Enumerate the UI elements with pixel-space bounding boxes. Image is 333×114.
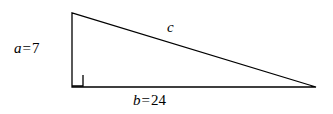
label-hypotenuse-c-variable: c bbox=[167, 19, 174, 35]
label-leg-b-equals: = bbox=[141, 92, 151, 108]
label-leg-a: a=7 bbox=[14, 41, 39, 56]
triangle-outline bbox=[72, 13, 316, 87]
label-leg-a-variable: a bbox=[14, 40, 22, 56]
label-leg-a-value: 7 bbox=[32, 40, 40, 56]
right-triangle-figure: a=7 b=24 c bbox=[0, 0, 333, 114]
label-leg-b: b=24 bbox=[133, 93, 166, 108]
triangle-svg bbox=[0, 0, 333, 114]
label-leg-a-equals: = bbox=[22, 40, 32, 56]
label-leg-b-value: 24 bbox=[151, 92, 166, 108]
right-angle-marker-icon bbox=[72, 75, 83, 86]
label-hypotenuse-c: c bbox=[167, 20, 174, 35]
label-leg-b-variable: b bbox=[133, 92, 141, 108]
